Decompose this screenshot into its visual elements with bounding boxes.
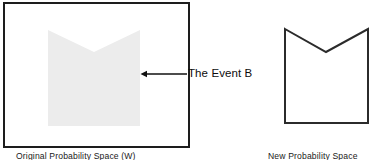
probability-space-figure: The Event B Original Probability Space (… [0, 0, 387, 160]
new-space-layer [0, 0, 387, 160]
event-b-as-new-space [285, 29, 368, 123]
caption-original-probability-space: Original Probability Space (W) [16, 151, 136, 160]
caption-new-probability-space: New Probability Space [268, 151, 358, 160]
